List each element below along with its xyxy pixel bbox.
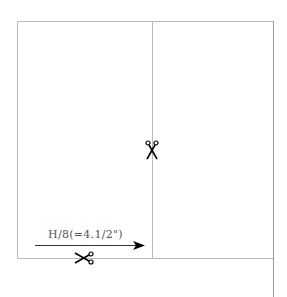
left-border	[17, 21, 18, 259]
scissors-icon	[74, 251, 94, 265]
scissors-icon	[145, 140, 159, 160]
bottom-border	[17, 258, 274, 259]
top-border	[17, 21, 274, 22]
measurement-label: H/8(=4.1/2")	[48, 228, 123, 241]
right-border	[273, 21, 274, 297]
